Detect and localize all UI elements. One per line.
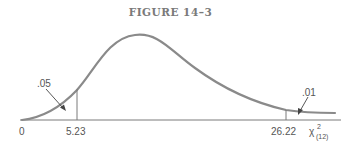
chi-square-diagram: .05 .01 0 5.23 26.22 χ 2 (12) xyxy=(0,0,341,145)
right-critical-value-label: 26.22 xyxy=(271,126,296,137)
right-tail-arrow xyxy=(300,97,308,111)
density-curve xyxy=(22,35,335,120)
left-critical-value-label: 5.23 xyxy=(66,126,86,137)
left-tail-area-label: .05 xyxy=(37,78,51,89)
chi-superscript: 2 xyxy=(317,123,321,130)
left-tail-arrow xyxy=(46,89,63,108)
chi-symbol: χ xyxy=(309,126,315,137)
origin-label: 0 xyxy=(19,126,25,137)
right-tail-area-label: .01 xyxy=(302,87,316,98)
chi-subscript: (12) xyxy=(316,133,328,141)
axis-variable-label: χ 2 (12) xyxy=(309,123,328,141)
